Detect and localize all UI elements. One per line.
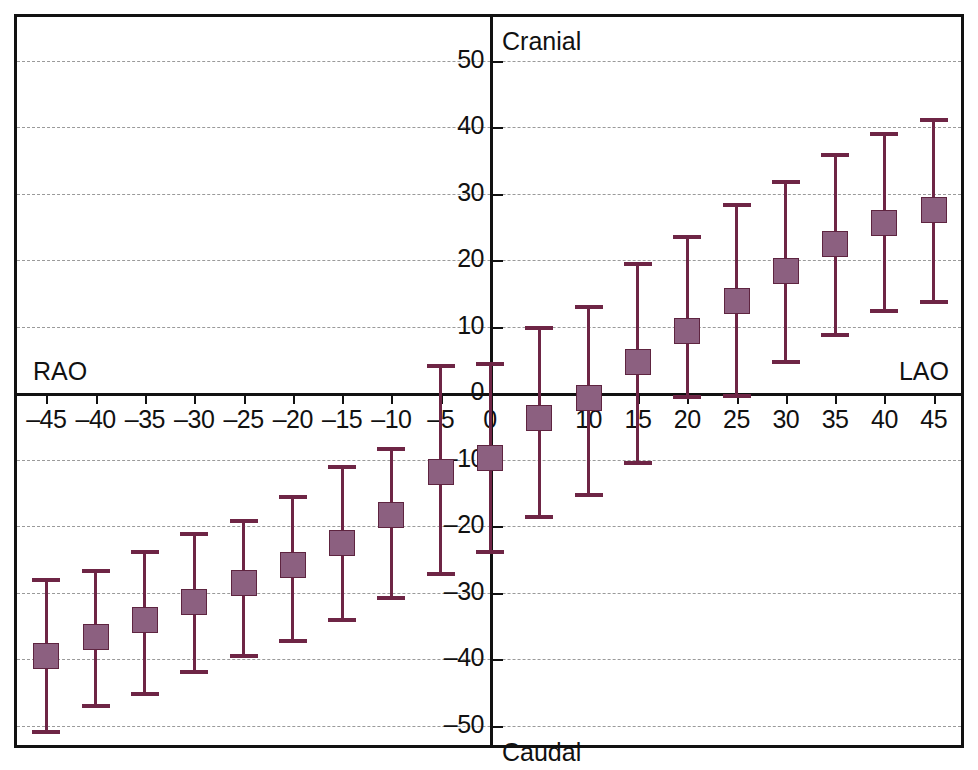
quadrant-label-cranial: Cranial xyxy=(502,27,581,56)
data-point-marker xyxy=(921,197,947,223)
error-bar-cap-upper xyxy=(82,569,110,573)
data-point-marker xyxy=(724,288,750,314)
y-axis-tick-label: –30 xyxy=(422,577,484,606)
error-bar-cap-lower xyxy=(328,618,356,622)
error-bar-cap-lower xyxy=(723,394,751,398)
error-bar-cap-lower xyxy=(279,639,307,643)
x-axis-tick xyxy=(835,393,837,404)
y-axis-tick-label: 50 xyxy=(422,45,484,74)
x-axis-tick xyxy=(934,393,936,404)
error-bar-cap-upper xyxy=(525,326,553,330)
error-bar-cap-upper xyxy=(279,495,307,499)
error-bar-cap-upper xyxy=(673,235,701,239)
quadrant-label-lao: LAO xyxy=(899,357,949,386)
y-axis-tick-label: 40 xyxy=(422,111,484,140)
y-axis-tick-label: 10 xyxy=(422,311,484,340)
error-bar-cap-lower xyxy=(131,692,159,696)
x-axis-tick xyxy=(293,393,295,404)
error-bar-cap-lower xyxy=(230,654,258,658)
error-bar-cap-lower xyxy=(870,309,898,313)
error-bar-cap-lower xyxy=(673,395,701,399)
data-point-marker xyxy=(625,349,651,375)
gridline-horizontal xyxy=(17,659,961,660)
y-axis-tick xyxy=(490,593,503,595)
x-axis-tick xyxy=(145,393,147,404)
data-point-marker xyxy=(773,258,799,284)
error-bar-cap-lower xyxy=(821,333,849,337)
data-point-marker xyxy=(576,385,602,411)
error-bar-cap-upper xyxy=(230,519,258,523)
y-axis-tick-label: 30 xyxy=(422,178,484,207)
x-axis-tick xyxy=(884,393,886,404)
error-bar-cap-lower xyxy=(32,730,60,734)
y-axis-tick xyxy=(490,61,503,63)
error-bar-cap-upper xyxy=(427,364,455,368)
error-bar-cap-upper xyxy=(377,447,405,451)
error-bar-cap-lower xyxy=(525,515,553,519)
error-bar-cap-lower xyxy=(377,596,405,600)
error-bar-cap-upper xyxy=(476,362,504,366)
gridline-horizontal xyxy=(17,194,961,195)
y-axis-tick xyxy=(490,260,503,262)
error-bar-cap-lower xyxy=(920,300,948,304)
data-point-marker xyxy=(477,445,503,471)
y-axis-tick xyxy=(490,127,503,129)
error-bar-cap-lower xyxy=(772,360,800,364)
gridline-horizontal xyxy=(17,327,961,328)
x-axis-tick xyxy=(244,393,246,404)
y-axis-tick xyxy=(490,327,503,329)
y-axis-tick xyxy=(490,526,503,528)
data-point-marker xyxy=(378,502,404,528)
data-point-marker xyxy=(280,552,306,578)
data-point-marker xyxy=(132,607,158,633)
data-point-marker xyxy=(526,405,552,431)
data-point-marker xyxy=(231,570,257,596)
gridline-horizontal xyxy=(17,61,961,62)
y-axis-tick-label: –20 xyxy=(422,510,484,539)
y-axis-tick-label: 0 xyxy=(422,377,484,406)
error-bar-cap-upper xyxy=(624,262,652,266)
y-axis-tick xyxy=(490,194,503,196)
error-bar-cap-upper xyxy=(328,465,356,469)
x-axis-tick xyxy=(342,393,344,404)
data-point-marker xyxy=(871,210,897,236)
error-bar-cap-upper xyxy=(870,132,898,136)
y-axis-tick xyxy=(490,659,503,661)
quadrant-label-rao: RAO xyxy=(33,357,87,386)
x-axis-tick xyxy=(786,393,788,404)
data-point-marker xyxy=(181,589,207,615)
gridline-horizontal xyxy=(17,127,961,128)
y-axis-tick-label: –40 xyxy=(422,643,484,672)
data-point-marker xyxy=(33,643,59,669)
data-point-marker xyxy=(83,624,109,650)
gridline-horizontal xyxy=(17,260,961,261)
error-bar-cap-upper xyxy=(920,118,948,122)
x-axis-tick xyxy=(96,393,98,404)
error-bar-cap-upper xyxy=(723,203,751,207)
error-bar-cap-upper xyxy=(772,180,800,184)
error-bar-cap-lower xyxy=(624,461,652,465)
error-bar-cap-lower xyxy=(476,550,504,554)
gridline-horizontal xyxy=(17,726,961,727)
error-bar-cap-upper xyxy=(131,550,159,554)
quadrant-label-caudal: Caudal xyxy=(502,738,581,767)
gridline-horizontal xyxy=(17,593,961,594)
y-axis-tick-label: 20 xyxy=(422,244,484,273)
data-point-marker xyxy=(329,530,355,556)
data-point-marker xyxy=(822,231,848,257)
data-point-marker xyxy=(674,318,700,344)
y-axis-tick-label: –50 xyxy=(422,710,484,739)
error-bar-cap-lower xyxy=(180,670,208,674)
x-axis-tick-label: 45 xyxy=(904,405,964,434)
error-bar-cap-lower xyxy=(427,572,455,576)
plot-frame: 50403020100–10–20–30–40–50–45–40–35–30–2… xyxy=(14,14,964,748)
y-axis-tick xyxy=(490,726,503,728)
chart-canvas: 50403020100–10–20–30–40–50–45–40–35–30–2… xyxy=(0,0,978,770)
x-axis-tick xyxy=(194,393,196,404)
x-axis-tick xyxy=(46,393,48,404)
error-bar-cap-lower xyxy=(82,704,110,708)
error-bar-line xyxy=(686,235,689,395)
x-axis-tick xyxy=(391,393,393,404)
error-bar-cap-upper xyxy=(821,153,849,157)
error-bar-cap-upper xyxy=(575,305,603,309)
